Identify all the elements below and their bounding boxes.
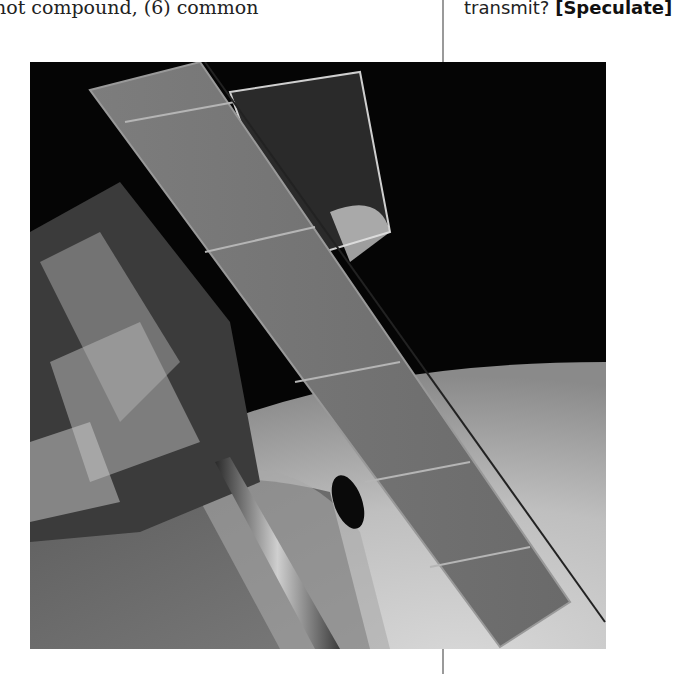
column-divider-bottom [442,649,444,674]
hubble-telescope-photo [30,62,606,649]
column-divider-top [442,0,444,62]
photo-image-icon [30,62,606,649]
speculate-tag: [Speculate] [555,0,672,18]
right-column-text: transmit? [Speculate] [464,0,672,18]
left-column-text: not compound, (6) common [0,0,259,18]
question-text: transmit? [464,0,549,18]
